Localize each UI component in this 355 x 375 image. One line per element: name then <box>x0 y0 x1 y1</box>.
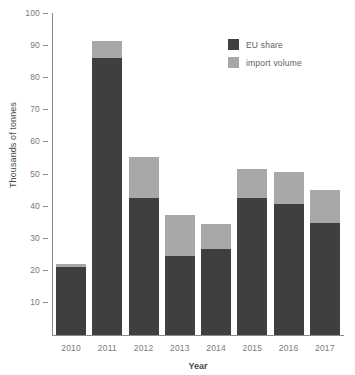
bar-segment-eu-share <box>201 249 231 335</box>
bar-segment-eu-share <box>237 198 267 335</box>
legend-item-import-volume: import volume <box>228 57 302 68</box>
y-tick-mark <box>43 109 48 110</box>
y-tick-mark <box>43 206 48 207</box>
stacked-bar-chart: Thousands of tonnes 10203040506070809010… <box>0 0 355 375</box>
legend-swatch-icon <box>228 57 239 68</box>
bar-2013 <box>165 215 195 335</box>
bar-segment-eu-share <box>129 198 159 335</box>
bar-segment-eu-share <box>56 267 86 335</box>
bar-segment-import-volume <box>165 215 195 256</box>
bar-2017 <box>310 190 340 335</box>
legend-item-eu-share: EU share <box>228 39 302 50</box>
y-tick-mark <box>43 238 48 239</box>
y-tick-label: 100 <box>25 8 40 18</box>
bar-segment-eu-share <box>310 223 340 335</box>
x-axis-title: Year <box>52 361 344 371</box>
bar-2012 <box>129 157 159 335</box>
y-tick-label: 20 <box>30 265 40 275</box>
x-axis-label-2016: 2016 <box>269 343 309 353</box>
bar-segment-import-volume <box>310 190 340 223</box>
bar-2010 <box>56 264 86 335</box>
bar-segment-eu-share <box>274 204 304 335</box>
legend-label: EU share <box>246 40 283 50</box>
bar-2011 <box>92 41 122 335</box>
x-axis-label-2010: 2010 <box>51 343 91 353</box>
bar-segment-import-volume <box>56 264 86 267</box>
y-tick-mark <box>43 174 48 175</box>
y-tick-label: 50 <box>30 169 40 179</box>
y-tick-mark <box>43 13 48 14</box>
bar-2016 <box>274 172 304 335</box>
y-tick-mark <box>43 141 48 142</box>
bar-2014 <box>201 224 231 335</box>
y-tick-label: 80 <box>30 72 40 82</box>
legend-swatch-icon <box>228 39 239 50</box>
y-tick-mark <box>43 270 48 271</box>
y-axis-title: Thousands of tonnes <box>8 80 18 210</box>
x-axis-label-2012: 2012 <box>124 343 164 353</box>
bar-segment-import-volume <box>129 157 159 198</box>
y-tick-mark <box>43 45 48 46</box>
y-tick-label: 30 <box>30 233 40 243</box>
x-axis-label-2017: 2017 <box>305 343 345 353</box>
y-tick-mark <box>43 77 48 78</box>
y-tick-label: 40 <box>30 201 40 211</box>
x-axis-label-2011: 2011 <box>87 343 127 353</box>
x-axis-line <box>52 335 344 336</box>
y-tick-label: 90 <box>30 40 40 50</box>
y-tick-label: 10 <box>30 297 40 307</box>
x-axis-label-2014: 2014 <box>196 343 236 353</box>
x-axis-label-2015: 2015 <box>232 343 272 353</box>
bar-segment-import-volume <box>92 41 122 58</box>
x-axis-label-2013: 2013 <box>160 343 200 353</box>
y-tick-label: 70 <box>30 104 40 114</box>
y-tick-label: 60 <box>30 136 40 146</box>
bar-segment-eu-share <box>165 256 195 335</box>
bar-segment-eu-share <box>92 58 122 335</box>
bar-segment-import-volume <box>237 169 267 198</box>
y-tick-mark <box>43 302 48 303</box>
chart-legend: EU shareimport volume <box>228 39 302 75</box>
bar-2015 <box>237 169 267 335</box>
legend-label: import volume <box>246 58 302 68</box>
bar-segment-import-volume <box>274 172 304 204</box>
bar-segment-import-volume <box>201 224 231 249</box>
